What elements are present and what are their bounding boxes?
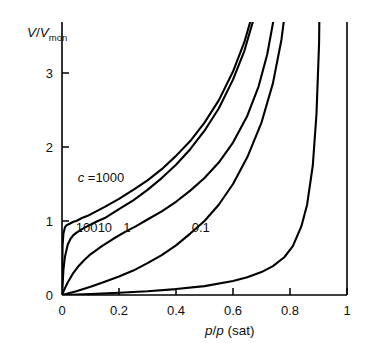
x-tick-label-0.4: 0.4 — [167, 303, 185, 318]
x-axis-title: p/p (sat) — [204, 323, 255, 338]
curve-label-c-0-1: 0.1 — [192, 220, 210, 235]
curve-label-c-1000: c =1000 — [78, 170, 125, 185]
plot-curves — [62, 0, 321, 295]
y-axis-title-subscript: mon — [49, 32, 67, 43]
axes-group — [62, 22, 347, 295]
x-tick-label-0.2: 0.2 — [110, 303, 128, 318]
y-tick-label-0: 0 — [46, 288, 53, 303]
curve-label-c-1: 1 — [123, 220, 130, 235]
y-tick-label-3: 3 — [46, 66, 53, 81]
curve-label-c-10: 10 — [98, 220, 112, 235]
tick-labels-group: 012300.20.40.60.81 — [46, 66, 351, 318]
y-tick-label-1: 1 — [46, 214, 53, 229]
x-tick-label-0: 0 — [58, 303, 65, 318]
chart-svg: 012300.20.40.60.81 c =10001001010.1 V/Vm… — [0, 0, 370, 343]
curve-labels-group: c =10001001010.1 — [76, 170, 210, 236]
curve-label-c-100: 100 — [76, 220, 98, 235]
x-tick-label-0.6: 0.6 — [224, 303, 242, 318]
y-tick-label-2: 2 — [46, 140, 53, 155]
x-tick-label-0.8: 0.8 — [281, 303, 299, 318]
x-tick-label-1: 1 — [343, 303, 350, 318]
bet-isotherm-chart: 012300.20.40.60.81 c =10001001010.1 V/Vm… — [0, 0, 370, 343]
